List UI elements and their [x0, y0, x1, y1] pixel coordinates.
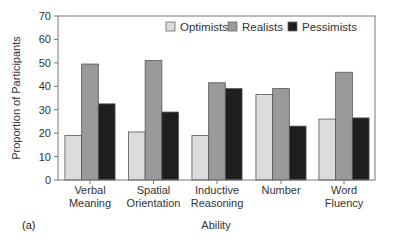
bars — [65, 61, 369, 180]
bar-realists — [336, 72, 353, 180]
bar-realists — [145, 61, 162, 180]
bar-optimists — [319, 119, 336, 180]
x-category-label: Spatial — [137, 184, 171, 196]
bar-realists — [82, 64, 99, 180]
legend-swatch-pessimists — [288, 22, 297, 31]
y-tick-label: 10 — [39, 151, 51, 163]
legend-label-pessimists: Pessimists — [302, 21, 357, 33]
x-axis-ticks: VerbalMeaningSpatialOrientationInductive… — [69, 180, 364, 209]
y-axis-ticks: 010203040506070 — [39, 10, 58, 186]
x-category-label: Number — [261, 184, 300, 196]
x-category-label: Word — [331, 184, 357, 196]
legend-swatch-realists — [228, 22, 237, 31]
legend: OptimistsRealistsPessimists — [166, 21, 357, 33]
legend-label-optimists: Optimists — [180, 21, 228, 33]
x-category-label: Meaning — [69, 197, 111, 209]
panel-label: (a) — [22, 219, 35, 231]
x-category-label: Reasoning — [191, 197, 244, 209]
y-tick-label: 0 — [45, 174, 51, 186]
bar-optimists — [128, 132, 145, 180]
bar-pessimists — [352, 118, 369, 180]
bar-chart: 010203040506070 VerbalMeaningSpatialOrie… — [0, 0, 394, 239]
y-tick-label: 50 — [39, 57, 51, 69]
legend-swatch-optimists — [166, 22, 175, 31]
x-category-label: Inductive — [195, 184, 239, 196]
y-tick-label: 60 — [39, 33, 51, 45]
bar-optimists — [192, 135, 209, 180]
x-category-label: Orientation — [127, 197, 181, 209]
bar-pessimists — [98, 104, 115, 180]
y-tick-label: 20 — [39, 127, 51, 139]
x-category-label: Verbal — [74, 184, 105, 196]
bar-optimists — [65, 135, 82, 180]
y-tick-label: 70 — [39, 10, 51, 22]
y-tick-label: 40 — [39, 80, 51, 92]
bar-pessimists — [225, 89, 242, 180]
y-axis-title: Proportion of Participants — [10, 36, 22, 160]
legend-label-realists: Realists — [242, 21, 283, 33]
bar-pessimists — [289, 126, 306, 180]
bar-realists — [273, 89, 290, 180]
bar-pessimists — [162, 112, 179, 180]
bar-optimists — [256, 94, 273, 180]
y-tick-label: 30 — [39, 104, 51, 116]
x-category-label: Fluency — [325, 197, 364, 209]
bar-realists — [209, 83, 226, 180]
x-axis-title: Ability — [201, 219, 231, 231]
